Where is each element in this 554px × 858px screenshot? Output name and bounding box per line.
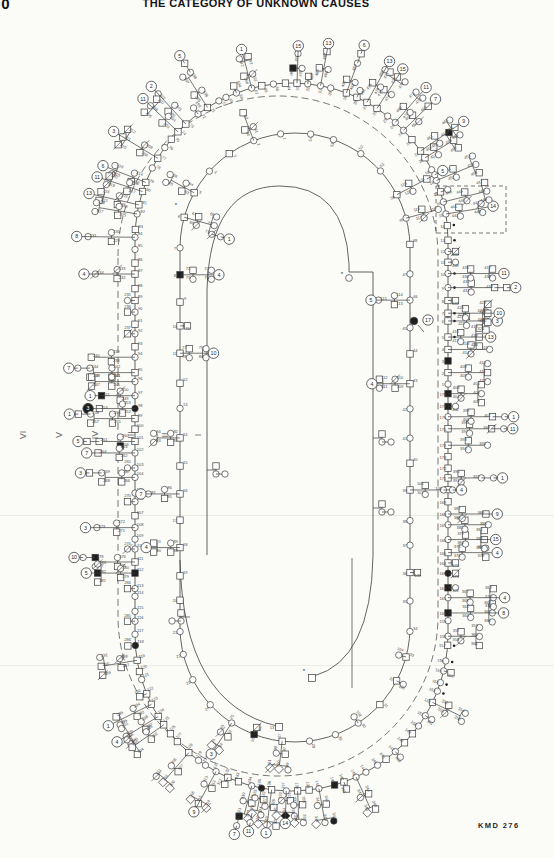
pedigree-cluster: 44 xyxy=(407,348,418,357)
svg-text:102: 102 xyxy=(137,447,144,452)
svg-text:410: 410 xyxy=(479,360,486,365)
svg-text:206: 206 xyxy=(151,104,160,113)
svg-text:281: 281 xyxy=(99,578,106,583)
pedigree-cluster: 667686970711 xyxy=(177,211,234,244)
svg-text:76: 76 xyxy=(168,145,175,152)
svg-text:11: 11 xyxy=(501,270,507,276)
svg-text:118: 118 xyxy=(137,639,144,644)
svg-text:488: 488 xyxy=(309,72,315,80)
svg-text:1: 1 xyxy=(442,382,445,387)
svg-text:4: 4 xyxy=(460,487,463,493)
svg-text:345: 345 xyxy=(340,786,347,795)
svg-text:103: 103 xyxy=(137,462,144,467)
svg-text:126: 126 xyxy=(168,723,177,732)
pedigree-cluster: 8727374754 xyxy=(174,266,224,282)
svg-text:111: 111 xyxy=(137,556,144,561)
svg-text:334: 334 xyxy=(282,807,287,815)
svg-text:3: 3 xyxy=(496,318,499,324)
pedigree-cluster: 25 xyxy=(382,113,391,124)
pedigree-cluster: 159 xyxy=(439,617,451,623)
svg-text:136: 136 xyxy=(266,780,272,788)
svg-text:404: 404 xyxy=(453,394,460,399)
svg-text:27: 27 xyxy=(277,732,283,738)
svg-text:284: 284 xyxy=(124,580,131,585)
svg-text:106: 106 xyxy=(417,481,424,486)
svg-text:316: 316 xyxy=(188,789,196,798)
svg-text:36: 36 xyxy=(403,571,408,576)
pedigree-cluster: 14 xyxy=(440,222,455,229)
svg-text:16: 16 xyxy=(183,488,188,493)
pedigree-cluster: 100 xyxy=(132,423,145,432)
pedigree-cluster: 90236 xyxy=(124,304,143,316)
svg-text:438: 438 xyxy=(484,274,491,279)
pedigree-cluster: 3 xyxy=(226,150,238,158)
svg-text:371: 371 xyxy=(485,603,492,608)
pedigree-cluster: 22 xyxy=(176,651,187,659)
svg-text:280: 280 xyxy=(122,565,129,570)
pedigree-cluster: 25929394953 xyxy=(206,713,235,759)
svg-text:5: 5 xyxy=(178,53,181,59)
pedigree-cluster: 671901911921931 xyxy=(236,44,259,96)
pedigree-cluster: 85 xyxy=(132,243,143,252)
pedigree-chart: 6465666719019119219316819469707119519619… xyxy=(0,0,554,858)
svg-text:111: 111 xyxy=(381,384,388,389)
svg-text:21: 21 xyxy=(173,630,178,635)
svg-text:128: 128 xyxy=(185,742,194,751)
svg-text:79: 79 xyxy=(149,178,156,185)
svg-text:81: 81 xyxy=(173,438,178,443)
svg-text:94: 94 xyxy=(138,351,143,356)
pedigree-cluster: 19 xyxy=(177,570,188,579)
svg-text:360: 360 xyxy=(471,632,478,637)
svg-text:296: 296 xyxy=(116,709,125,717)
svg-text:290: 290 xyxy=(102,661,110,667)
svg-text:256: 256 xyxy=(114,410,121,415)
svg-text:160: 160 xyxy=(439,611,446,616)
pedigree-cluster: 148 xyxy=(396,735,407,746)
svg-text:262: 262 xyxy=(121,453,128,458)
svg-text:272: 272 xyxy=(118,519,125,524)
svg-text:267: 267 xyxy=(123,469,130,474)
pedigree-cluster: 40 xyxy=(407,457,418,466)
svg-text:383: 383 xyxy=(476,545,483,550)
svg-text:114: 114 xyxy=(137,590,144,595)
svg-text:369: 369 xyxy=(485,585,492,590)
pedigree-cluster: 431091101111124 xyxy=(367,374,419,391)
pedigree-cluster: 34 xyxy=(407,626,418,635)
svg-text:11: 11 xyxy=(140,96,146,102)
svg-text:398: 398 xyxy=(483,425,490,430)
svg-text:94: 94 xyxy=(217,741,224,748)
svg-text:99: 99 xyxy=(138,413,143,418)
svg-text:83: 83 xyxy=(138,224,143,229)
pedigree-cluster: 33104 xyxy=(396,646,416,660)
svg-text:203: 203 xyxy=(163,121,172,130)
pedigree-cluster: 11439 xyxy=(441,259,460,268)
svg-text:428: 428 xyxy=(479,300,486,305)
svg-text:64: 64 xyxy=(287,86,292,91)
pedigree-cluster: 2606162 xyxy=(240,110,262,147)
pedigree-cluster: 21 xyxy=(173,628,184,634)
svg-text:191: 191 xyxy=(252,75,259,83)
svg-text:66: 66 xyxy=(263,88,269,94)
svg-text:252: 252 xyxy=(124,409,131,414)
svg-text:368: 368 xyxy=(462,598,469,603)
svg-text:25: 25 xyxy=(228,713,235,720)
svg-text:285: 285 xyxy=(124,613,131,618)
svg-text:73: 73 xyxy=(189,122,196,129)
svg-text:14: 14 xyxy=(440,224,445,229)
svg-text:122: 122 xyxy=(146,685,155,692)
svg-text:61: 61 xyxy=(253,128,260,135)
svg-text:229: 229 xyxy=(113,238,120,243)
svg-text:84: 84 xyxy=(156,429,161,434)
svg-text:86: 86 xyxy=(138,257,143,262)
svg-text:201: 201 xyxy=(175,104,184,113)
figure-id: KMD 276 xyxy=(478,821,519,830)
svg-text:11: 11 xyxy=(423,84,429,90)
pedigree-cluster: 29 xyxy=(332,731,344,742)
svg-text:112: 112 xyxy=(137,567,144,572)
svg-text:14: 14 xyxy=(282,820,288,826)
pedigree-cluster: 118286 xyxy=(124,637,144,649)
pedigree-cluster: 169 xyxy=(439,499,451,505)
svg-text:397: 397 xyxy=(461,429,468,434)
svg-text:37: 37 xyxy=(403,543,408,548)
svg-text:17: 17 xyxy=(425,317,431,323)
